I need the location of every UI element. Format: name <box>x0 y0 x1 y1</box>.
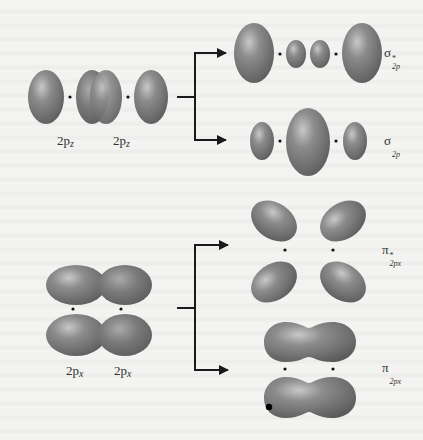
orbital-figure <box>0 0 423 440</box>
nucleus-dot <box>331 367 334 370</box>
label-2pz-right: 2pz <box>113 134 130 149</box>
nucleus-dot <box>283 248 286 251</box>
subscript: 2px <box>390 378 402 386</box>
pi-2px-orbital <box>264 322 356 418</box>
lobe <box>286 108 330 176</box>
lobe <box>46 265 106 305</box>
nucleus-dot <box>331 248 334 251</box>
lobe <box>342 23 382 83</box>
subscript: 2p <box>392 63 400 71</box>
lobe-upper <box>264 322 356 362</box>
nucleus-dot <box>119 307 122 310</box>
lobe <box>286 40 306 68</box>
subscript: 2px <box>390 260 402 268</box>
lobe <box>243 192 305 250</box>
subscript: x <box>127 368 131 379</box>
lobe <box>134 70 168 124</box>
nucleus-dot <box>126 95 129 98</box>
nucleus-dot <box>334 52 337 55</box>
atomic-2px-pair <box>46 265 152 356</box>
subscript: z <box>70 138 74 149</box>
nucleus-dot <box>278 52 281 55</box>
lobe <box>310 40 330 68</box>
nucleus-dot <box>71 307 74 310</box>
lobe <box>312 192 374 250</box>
lobe <box>98 265 152 305</box>
label-2px-left: 2px <box>66 364 83 379</box>
mo-diagram: 2pz 2pz 2px 2px σ*2p σ​2p π*2px π​2px <box>0 0 423 440</box>
nucleus-dot <box>334 139 337 142</box>
subscript: x <box>79 368 83 379</box>
lobe <box>343 122 367 160</box>
label-2px-right: 2px <box>114 364 131 379</box>
marker-dot <box>266 404 272 410</box>
sigma-2p-orbital <box>250 108 367 176</box>
lobe <box>234 23 274 83</box>
lobe-lower <box>264 377 356 418</box>
nucleus-dot <box>283 367 286 370</box>
lobe <box>312 253 374 311</box>
nucleus-dot <box>68 95 71 98</box>
lobe <box>98 314 152 356</box>
lobe <box>250 122 274 160</box>
subscript: z <box>126 138 130 149</box>
label-sigma-star-2p: σ*2p <box>384 46 400 71</box>
label-2pz-left: 2pz <box>57 134 74 149</box>
lobe <box>28 70 64 124</box>
atomic-2pz-pair <box>28 70 168 124</box>
subscript: 2p <box>392 151 400 159</box>
lobe <box>90 70 122 124</box>
label-sigma-2p: σ​2p <box>384 134 400 159</box>
lobe <box>46 314 106 356</box>
lobe <box>243 253 305 311</box>
label-pi-star-2px: π*2px <box>382 243 401 268</box>
sigma-star-2p-orbital <box>234 23 382 83</box>
pi-star-2px-orbital <box>243 192 374 311</box>
split-arrow-bracket-pi <box>177 245 228 370</box>
nucleus-dot <box>278 139 281 142</box>
label-pi-2px: π​2px <box>382 361 401 386</box>
split-arrow-bracket-sigma <box>177 53 226 140</box>
